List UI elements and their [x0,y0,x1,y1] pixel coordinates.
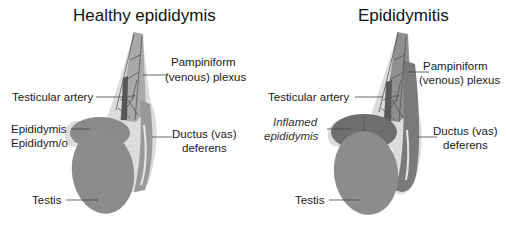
label-epididymis: epididymis [264,130,318,143]
panel-healthy-epididymis: Healthy epididymis Pampiniform (venous) … [0,0,253,230]
label-testis: Testis [295,194,324,207]
label-epididymis: Epididymis [11,123,67,136]
label-venous-plexus: (venous) plexus [165,71,246,84]
label-testis: Testis [32,194,61,207]
label-pampiniform: Pampiniform [171,56,236,69]
label-epididymo: Epididym/o [11,137,68,150]
panel-title: Epididymitis [358,6,449,26]
label-deferens: deferens [182,142,227,155]
panel-title: Healthy epididymis [73,6,216,26]
label-ductus: Ductus (vas) [433,125,498,138]
label-testicular-artery: Testicular artery [12,91,93,104]
label-venous-plexus: (venous) plexus [419,74,500,87]
label-inflamed: Inflamed [273,116,317,129]
label-testicular-artery: Testicular artery [268,91,349,104]
panel-epididymitis: Epididymitis Pampiniform (venous) plexus… [253,0,506,230]
label-pampiniform: Pampiniform [423,60,488,73]
label-ductus: Ductus (vas) [172,128,237,141]
label-deferens: deferens [443,139,488,152]
inflamed-testis-illustration [253,0,506,230]
